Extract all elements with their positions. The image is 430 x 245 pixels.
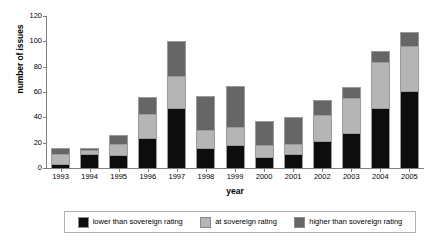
bar-segment-lower-than-sovereign[interactable] [371,108,390,168]
bar-segment-at-sovereign[interactable] [196,130,215,148]
bar-stack[interactable] [313,100,332,168]
y-tick-mark [43,16,46,17]
legend-label: higher than sovereign rating [309,218,402,226]
y-tick-label: 60 [16,88,42,96]
bar-stack[interactable] [138,97,157,168]
bar-segment-lower-than-sovereign[interactable] [313,141,332,168]
bar-segment-lower-than-sovereign[interactable] [138,138,157,168]
x-axis-title: year [46,186,424,196]
legend-swatch-icon [200,217,211,228]
bar-segment-at-sovereign[interactable] [51,154,70,164]
bar-stack[interactable] [371,51,390,168]
plot-area: 020406080100120 [46,16,424,168]
bar-segment-higher-than-sovereign[interactable] [313,100,332,115]
bar-segment-at-sovereign[interactable] [255,145,274,156]
y-tick-label: 80 [16,63,42,71]
bar-segment-higher-than-sovereign[interactable] [400,32,419,46]
bar-stack[interactable] [80,148,99,168]
bar-segment-lower-than-sovereign[interactable] [51,164,70,168]
bar-segment-higher-than-sovereign[interactable] [371,51,390,61]
y-tick-mark [43,117,46,118]
y-tick-label: 40 [16,113,42,121]
legend-item[interactable]: higher than sovereign rating [294,217,402,228]
bar-segment-lower-than-sovereign[interactable] [226,145,245,168]
y-tick-mark [43,143,46,144]
bar-segment-lower-than-sovereign[interactable] [284,154,303,168]
bar-stack[interactable] [255,121,274,168]
bar-segment-higher-than-sovereign[interactable] [284,117,303,144]
stacked-bar-chart: number of issues 020406080100120 1993199… [0,0,430,245]
chart-legend: lower than sovereign ratingat sovereign … [64,211,416,233]
bar-stack[interactable] [284,117,303,168]
bar-segment-lower-than-sovereign[interactable] [255,157,274,168]
bar-segment-at-sovereign[interactable] [226,127,245,145]
bar-segment-higher-than-sovereign[interactable] [255,121,274,145]
bar-segment-at-sovereign[interactable] [284,144,303,154]
bar-stack[interactable] [167,41,186,168]
y-tick-label: 120 [16,12,42,20]
legend-item[interactable]: at sovereign rating [200,217,277,228]
y-tick-mark [43,67,46,68]
y-tick-mark [43,41,46,42]
bar-stack[interactable] [109,135,128,168]
y-tick-label: 100 [16,37,42,45]
bar-segment-lower-than-sovereign[interactable] [80,154,99,168]
bar-segment-higher-than-sovereign[interactable] [226,86,245,128]
bar-segment-at-sovereign[interactable] [371,62,390,109]
y-tick-label: 20 [16,139,42,147]
legend-label: lower than sovereign rating [93,218,183,226]
y-tick-label: 0 [16,164,42,172]
bar-segment-at-sovereign[interactable] [342,98,361,132]
bar-segment-lower-than-sovereign[interactable] [400,91,419,168]
bar-segment-at-sovereign[interactable] [400,46,419,90]
bar-stack[interactable] [196,96,215,168]
bar-segment-at-sovereign[interactable] [167,76,186,109]
y-tick-mark [43,168,46,169]
bar-segment-lower-than-sovereign[interactable] [109,155,128,168]
bar-stack[interactable] [342,87,361,168]
bar-segment-lower-than-sovereign[interactable] [342,133,361,168]
bar-stack[interactable] [226,86,245,168]
legend-item[interactable]: lower than sovereign rating [78,217,183,228]
bar-segment-lower-than-sovereign[interactable] [196,148,215,168]
y-tick-mark [43,92,46,93]
bar-stack[interactable] [400,32,419,168]
bar-segment-higher-than-sovereign[interactable] [167,41,186,75]
bar-segment-lower-than-sovereign[interactable] [167,108,186,168]
bar-segment-higher-than-sovereign[interactable] [196,96,215,130]
bar-segment-at-sovereign[interactable] [109,144,128,155]
bar-stack[interactable] [51,148,70,168]
bar-segment-at-sovereign[interactable] [313,115,332,142]
bar-segment-higher-than-sovereign[interactable] [138,97,157,113]
y-axis-line [46,16,47,169]
x-tick-label: 2005 [389,173,429,181]
legend-swatch-icon [78,217,89,228]
bar-segment-higher-than-sovereign[interactable] [342,87,361,98]
legend-swatch-icon [294,217,305,228]
bar-segment-at-sovereign[interactable] [138,114,157,138]
bar-segment-higher-than-sovereign[interactable] [109,135,128,144]
legend-label: at sovereign rating [215,218,277,226]
